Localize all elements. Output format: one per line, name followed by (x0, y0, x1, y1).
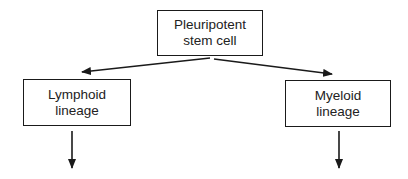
node-label-line1: Pleuripotent (174, 17, 246, 33)
node-myeloid-lineage: Myeloid lineage (285, 80, 391, 127)
node-label-line2: lineage (316, 104, 360, 120)
node-label-line1: Myeloid (315, 88, 362, 104)
node-label-line2: lineage (55, 103, 99, 119)
node-pleuripotent-stem-cell: Pleuripotent stem cell (157, 10, 263, 56)
arrow-root-to-myeloid (214, 59, 332, 74)
arrow-root-to-lymphoid (82, 58, 210, 72)
node-lymphoid-lineage: Lymphoid lineage (23, 79, 131, 126)
node-label-line1: Lymphoid (48, 87, 106, 103)
node-label-line2: stem cell (183, 33, 236, 49)
